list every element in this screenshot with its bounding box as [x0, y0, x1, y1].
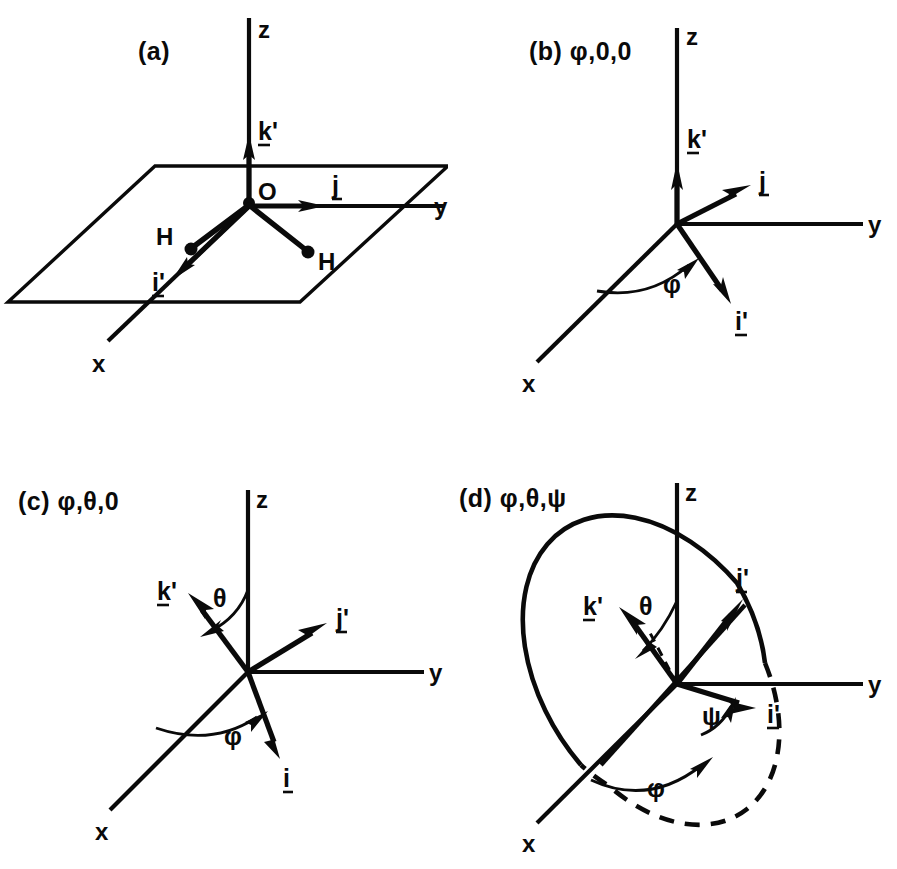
hydrogen-left-label: H: [156, 223, 173, 250]
vector-i-prime-label: i': [152, 268, 165, 296]
hydrogen-left-dot: [185, 243, 198, 256]
vector-i-shaft: [248, 672, 274, 742]
axis-z-label: z: [256, 486, 268, 513]
panel-c-caption: (c) φ,θ,0: [18, 487, 119, 515]
vector-i-prime-shaft: [677, 224, 722, 290]
euler-angle-figure: (a) z y x k' j i': [0, 0, 897, 869]
panel-c: (c) φ,θ,0 z y x k' j' i: [0, 435, 448, 869]
panel-b: (b) φ,0,0 z y x k' j i': [449, 0, 897, 434]
vector-j-prime-shaft: [248, 633, 312, 672]
vector-i-arrowhead: [264, 731, 280, 759]
vector-i-prime-shaft: [677, 684, 739, 703]
axis-y-label: y: [868, 671, 882, 698]
axis-y-label: y: [434, 193, 448, 220]
angle-theta-label: θ: [213, 584, 227, 612]
axis-x-label: x: [522, 370, 536, 397]
vector-j-prime-label: j': [335, 604, 349, 632]
axis-y-label: y: [868, 211, 882, 238]
panel-a-caption: (a): [138, 37, 170, 65]
panel-d-caption: (d) φ,θ,ψ: [459, 484, 567, 512]
angle-theta-label: θ: [639, 592, 653, 620]
axis-y-label: y: [429, 659, 443, 686]
panel-a: (a) z y x k' j i': [0, 0, 448, 434]
vector-i-label: i: [283, 764, 290, 792]
vector-k-prime-label: k': [157, 577, 177, 605]
vector-k-prime-label: k': [583, 592, 603, 620]
reference-plane: [8, 166, 448, 302]
angle-phi-label: φ: [224, 722, 242, 750]
axis-x-label: x: [95, 818, 109, 845]
axis-z-label: z: [258, 16, 270, 43]
vector-j-label: j: [758, 167, 766, 195]
axis-z-label: z: [686, 23, 698, 50]
angle-phi-arrowhead: [690, 757, 713, 778]
bond-o-h-right: [249, 205, 306, 250]
vector-k-prime-label: k': [687, 125, 707, 153]
vector-k-prime-shaft: [202, 610, 248, 672]
axis-x-label: x: [92, 350, 106, 377]
angle-phi-label: φ: [647, 774, 665, 802]
axis-z-label: z: [685, 479, 697, 506]
vector-j-prime-label: j': [735, 564, 749, 592]
hydrogen-right-label: H: [318, 248, 335, 275]
panel-d: (d) φ,θ,ψ z y x k': [449, 435, 897, 869]
vector-k-prime-label: k': [258, 117, 278, 145]
vector-k-prime-arrowhead: [188, 593, 214, 619]
angle-phi-label: φ: [663, 270, 681, 298]
vector-j-prime-shaft: [677, 615, 731, 684]
axis-x-label: x: [522, 830, 536, 857]
oxygen-atom-label: O: [258, 178, 277, 205]
vector-j-label: j: [331, 171, 339, 199]
vector-i-prime-label: i': [767, 700, 780, 728]
panel-b-caption: (b) φ,0,0: [529, 37, 632, 65]
hydrogen-right-dot: [302, 246, 315, 259]
vector-i-prime-label: i': [735, 307, 748, 335]
bond-o-h-left: [193, 205, 249, 247]
angle-psi-label: ψ: [702, 702, 721, 730]
